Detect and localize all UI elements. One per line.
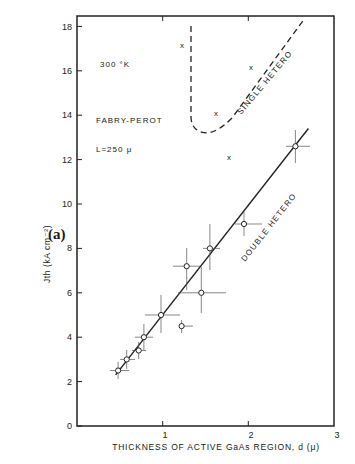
svg-text:6: 6	[67, 288, 72, 298]
svg-text:x: x	[214, 109, 218, 118]
svg-text:18: 18	[62, 22, 72, 32]
x-axis-labels: 1 2 3	[162, 430, 339, 440]
svg-text:4: 4	[67, 332, 72, 342]
svg-text:3: 3	[334, 430, 339, 440]
plot-frame	[77, 16, 334, 426]
svg-text:x: x	[249, 63, 253, 72]
y-axis-title: Jth (kA cm⁻²)	[42, 225, 52, 283]
svg-text:2: 2	[67, 377, 72, 387]
svg-text:14: 14	[62, 110, 72, 120]
error-bars	[110, 130, 310, 379]
svg-text:10: 10	[62, 199, 72, 209]
svg-text:FABRY-PEROT: FABRY-PEROT	[96, 116, 163, 125]
svg-text:1: 1	[162, 430, 167, 440]
svg-text:2: 2	[248, 430, 253, 440]
double-hetero-label: DOUBLE HETERO	[239, 191, 298, 263]
x-axis-title: THICKNESS OF ACTIVE GaAs REGION, d (μ)	[112, 442, 320, 452]
svg-text:16: 16	[62, 66, 72, 76]
svg-text:12: 12	[62, 155, 72, 165]
y-axis-labels: 0 2 4 6 8 10 12 14 16 18	[62, 22, 72, 431]
single-hetero-curve	[191, 18, 305, 133]
svg-text:8: 8	[67, 243, 72, 253]
svg-text:x: x	[227, 153, 231, 162]
svg-text:0: 0	[67, 421, 72, 431]
svg-text:L=250 μ: L=250 μ	[96, 145, 132, 154]
annotations: 300 °K FABRY-PEROT L=250 μ	[96, 60, 163, 154]
svg-text:300 °K: 300 °K	[100, 60, 130, 69]
svg-text:x: x	[180, 41, 184, 50]
chart: 0 2 4 6 8 10 12 14 16 18 1 2 3 THICKNESS…	[0, 0, 355, 464]
single-hetero-label: SINGLE HETERO	[236, 49, 295, 116]
